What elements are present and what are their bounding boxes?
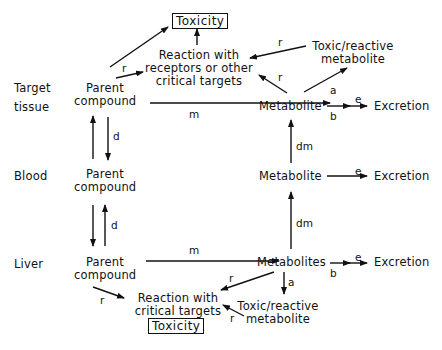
- arrow-parent-to-reaction-liver: [93, 287, 124, 298]
- toxicity-box-bottom: Toxicity: [148, 318, 204, 334]
- edge-label-r-toxic-liver: r: [230, 312, 235, 325]
- edge-label-e-liver: e: [355, 251, 362, 264]
- parent-compound-liver: Parent compound: [74, 256, 136, 282]
- edge-label-r-metabolites-liver: r: [229, 272, 234, 285]
- region-label-liver: Liver: [14, 258, 43, 271]
- edge-label-dm-lower: dm: [296, 217, 313, 230]
- excretion-target: Excretion: [374, 100, 430, 113]
- edge-label-d-upper: d: [113, 130, 120, 143]
- toxicity-box-top: Toxicity: [172, 13, 228, 29]
- edge-label-m-liver: m: [189, 244, 199, 257]
- excretion-liver: Excretion: [374, 256, 430, 269]
- reaction-node-bottom: Reaction with critical targets: [130, 292, 226, 318]
- edge-label-r-metabolite-target: r: [278, 71, 283, 84]
- reaction-top-line3: critical targets: [142, 75, 256, 88]
- metabolite-target: Metabolite: [259, 100, 322, 113]
- toxic-bottom-line2: metabolite: [232, 313, 324, 326]
- metabolite-blood: Metabolite: [259, 170, 322, 183]
- edge-label-b-liver: b: [330, 267, 337, 280]
- edge-label-e-target: e: [355, 93, 362, 106]
- edge-label-r-parent-liver: r: [100, 294, 105, 307]
- region-label-blood: Blood: [14, 170, 47, 183]
- toxic-metabolite-node-bottom: Toxic/reactive metabolite: [232, 300, 324, 326]
- edge-label-dm-upper: dm: [296, 140, 313, 153]
- excretion-blood: Excretion: [374, 170, 430, 183]
- edge-label-r-toxic-target: r: [278, 36, 283, 49]
- edge-label-a-liver: a: [288, 276, 295, 289]
- edge-label-m-target: m: [189, 108, 199, 121]
- reaction-bottom-line2: critical targets: [130, 305, 226, 318]
- parent-blood-line2: compound: [74, 181, 136, 194]
- parent-compound-target: Parent compound: [74, 82, 136, 108]
- edge-label-b-target: b: [330, 110, 337, 123]
- metabolites-liver: Metabolites: [257, 256, 326, 269]
- arrow-parent-to-reaction: [116, 72, 143, 78]
- edge-label-d-lower: d: [111, 219, 118, 232]
- reaction-node-top: Reaction with receptors or other critica…: [142, 49, 256, 88]
- region-label-target: Target tissue: [14, 82, 51, 114]
- parent-liver-line2: compound: [74, 269, 136, 282]
- region-target-line2: tissue: [14, 101, 51, 114]
- toxic-metabolite-node-top: Toxic/reactive metabolite: [308, 40, 398, 66]
- arrow-metabolite-to-toxic: [304, 68, 347, 92]
- edge-label-a-target: a: [330, 84, 337, 97]
- edge-label-r-parent-target: r: [122, 62, 127, 75]
- parent-target-line2: compound: [74, 95, 136, 108]
- parent-compound-blood: Parent compound: [74, 168, 136, 194]
- region-target-line1: Target: [14, 82, 51, 95]
- edge-label-e-blood: e: [355, 165, 362, 178]
- toxic-top-line2: metabolite: [308, 53, 398, 66]
